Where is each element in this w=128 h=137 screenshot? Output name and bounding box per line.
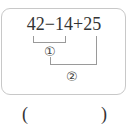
- bracket-2-right: [96, 36, 97, 65]
- answer-close-paren: ): [101, 104, 107, 125]
- answer-blank[interactable]: [30, 104, 98, 126]
- expression-text: 42−14+25: [0, 14, 128, 35]
- answer-open-paren: (: [22, 104, 28, 125]
- bracket-2-bottom: [50, 64, 97, 65]
- step-2-marker: ②: [66, 69, 78, 84]
- bracket-1-bottom: [33, 42, 66, 43]
